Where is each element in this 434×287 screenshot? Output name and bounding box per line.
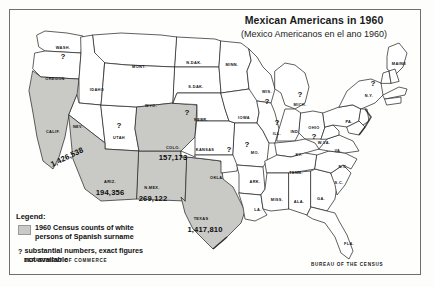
state-label-kansas: KANSAS xyxy=(196,147,215,152)
state-label-okla: OKLA. xyxy=(210,175,224,180)
state-label-nc: N.C. xyxy=(338,164,347,169)
state-label-ndak: N.DAK. xyxy=(186,60,202,65)
state-fla xyxy=(307,207,353,259)
state-wyo xyxy=(101,63,175,107)
legend-shaded-line2: persons of Spanish surname xyxy=(35,233,134,242)
state-label-wash: WASH. xyxy=(56,45,71,50)
state-label-va: VA. xyxy=(334,148,341,153)
department-credit: DEPARTMENT OF COMMERCE xyxy=(24,258,107,263)
state-label-tenn: TENN. xyxy=(289,170,302,175)
state-label-wyo: WYO. xyxy=(145,103,157,108)
state-label-ky: KY. xyxy=(295,152,302,157)
qmark-wash: ? xyxy=(61,52,66,61)
state-label-ariz: ARIZ. xyxy=(104,179,116,184)
state-label-utah: UTAH xyxy=(113,135,125,140)
state-label-nebr: NEBR. xyxy=(194,117,208,122)
state-label-nmex: N.MEX. xyxy=(144,185,160,190)
state-ny xyxy=(339,79,383,109)
state-ala xyxy=(289,171,311,215)
qmark-nebr: ? xyxy=(185,108,190,117)
qmark-utah: ? xyxy=(117,121,122,130)
state-value-ariz: 194,356 xyxy=(96,188,125,197)
state-value-colo: 157,173 xyxy=(159,153,188,162)
bureau-credit: BUREAU OF THE CENSUS xyxy=(311,262,383,267)
state-label-ill: ILL. xyxy=(273,131,281,136)
state-label-ny: N.Y. xyxy=(365,93,374,98)
state-label-fla: FLA. xyxy=(344,241,354,246)
state-label-nev: NEV. xyxy=(73,124,83,129)
qmark-ohio: ? xyxy=(312,132,317,141)
state-label-maine: MAINE xyxy=(392,61,406,66)
state-label-pa: PA. xyxy=(345,119,352,124)
qmark-mich: ? xyxy=(298,90,303,99)
legend-shaded-text: 1960 Census counts of white persons of S… xyxy=(35,224,134,241)
state-label-mo: MO. xyxy=(251,150,259,155)
state-label-iowa: IOWA xyxy=(238,115,250,120)
mexican-americans-1960-map: Mexican Americans in 1960 (Mexico Americ… xyxy=(0,0,434,287)
state-label-wva: W.VA. xyxy=(318,140,330,145)
state-label-miss: MISS. xyxy=(271,197,283,202)
legend-qmark-symbol: ? xyxy=(18,247,22,256)
state-miss xyxy=(261,173,289,211)
state-label-sc: S.C. xyxy=(335,180,344,185)
state-label-minn: MINN. xyxy=(226,62,239,67)
state-label-oregon: OREGON xyxy=(45,76,64,81)
state-label-calif: CALIF. xyxy=(46,129,60,134)
state-label-colo: COLO. xyxy=(166,145,180,150)
legend-swatch xyxy=(18,225,31,235)
state-maine xyxy=(387,43,407,75)
state-label-ohio: OHIO xyxy=(308,125,319,130)
state-label-mich: MICH. xyxy=(294,102,307,107)
state-label-wis: WIS. xyxy=(262,89,272,94)
state-label-ala: ALA. xyxy=(294,199,304,204)
state-label-ga: GA. xyxy=(317,196,325,201)
state-mass xyxy=(383,87,407,99)
state-value-nmex: 269,122 xyxy=(139,194,168,203)
state-label-ind: IND. xyxy=(290,129,299,134)
state-label-idaho: IDAHO xyxy=(90,87,104,92)
legend-heading: Legend: xyxy=(16,212,196,221)
qmark-kansas: ? xyxy=(227,145,232,154)
state-label-la: LA. xyxy=(254,207,261,212)
qmark-ny: ? xyxy=(371,79,376,88)
state-label-ark: ARK. xyxy=(250,179,261,184)
qmark-mo: ? xyxy=(245,140,250,149)
state-wash xyxy=(37,31,83,53)
state-label-sdak: S.DAK. xyxy=(188,84,203,89)
qmark-wis: ? xyxy=(265,97,270,106)
state-ind xyxy=(277,109,301,141)
state-minn xyxy=(219,41,251,93)
state-nc xyxy=(315,151,357,173)
state-label-mont: MONT. xyxy=(132,64,146,69)
qmark-ill: ? xyxy=(275,118,280,127)
legend-row-shaded: 1960 Census counts of white persons of S… xyxy=(16,224,196,241)
state-mont xyxy=(93,33,177,67)
